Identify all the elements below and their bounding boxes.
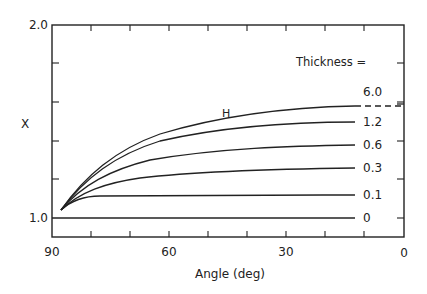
chart: 2.0 1.0 90 60 30 0 X Angle (deg) Thickne…	[0, 0, 427, 294]
series-label-6.0: 6.0	[363, 85, 382, 99]
series-0.1-line	[61, 195, 355, 210]
series-label-1.2: 1.2	[363, 115, 382, 129]
series-label-0.1: 0.1	[363, 188, 382, 202]
legend-title: Thickness =	[295, 55, 366, 69]
y-label-2.0: 2.0	[29, 18, 48, 32]
series-0.3-line	[61, 168, 355, 210]
x-label-0: 0	[400, 246, 408, 260]
x-label-30: 30	[278, 245, 293, 259]
series-6.0-line	[61, 106, 355, 210]
y-axis-title: X	[21, 117, 29, 131]
series-label-0.6: 0.6	[363, 138, 382, 152]
series-0.6-line	[61, 145, 355, 210]
x-label-90: 90	[44, 245, 59, 259]
series-label-0.3: 0.3	[363, 161, 382, 175]
y-label-1.0: 1.0	[29, 211, 48, 225]
curves	[52, 104, 404, 218]
x-axis-title: Angle (deg)	[195, 267, 265, 281]
series-1.2-line	[61, 122, 355, 210]
x-label-60: 60	[161, 245, 176, 259]
curve-label-H: H	[222, 107, 230, 120]
series-label-0: 0	[363, 211, 371, 225]
